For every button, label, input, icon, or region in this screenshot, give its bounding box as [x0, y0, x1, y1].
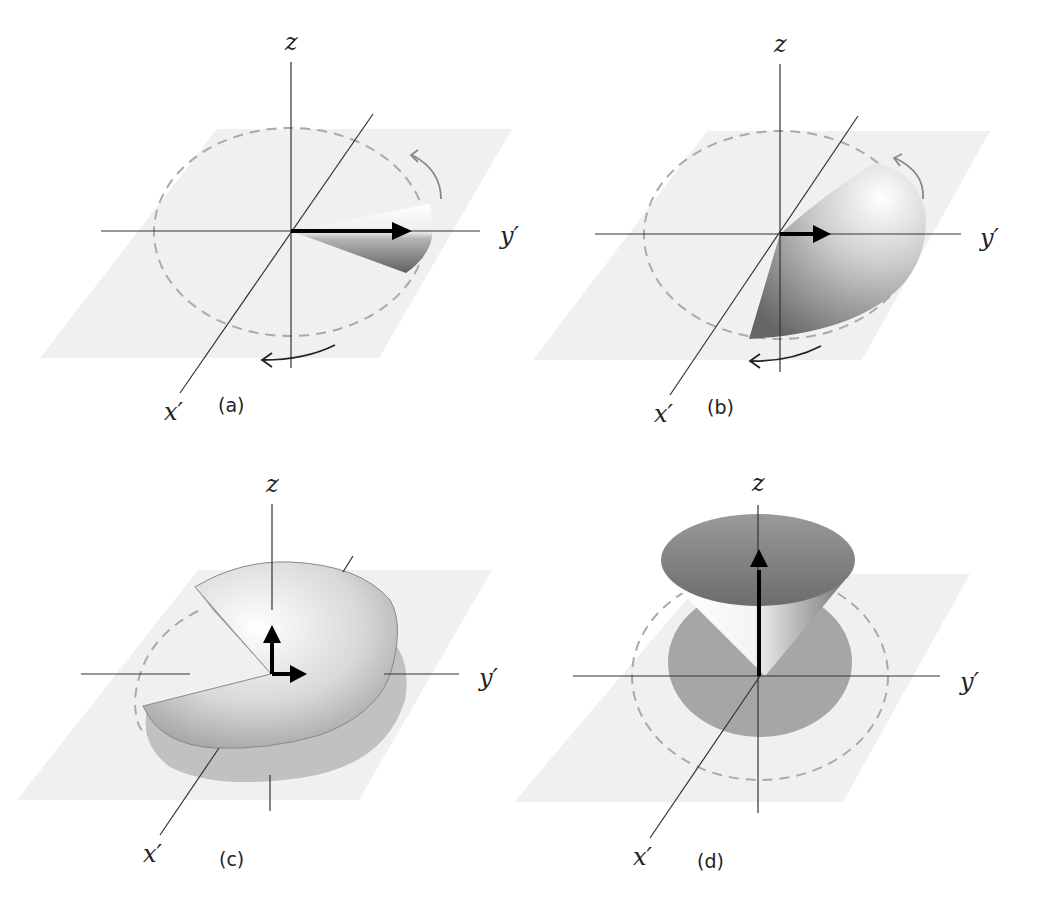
- y-axis-label: y′: [959, 668, 980, 696]
- z-axis-label: z: [751, 469, 765, 497]
- panel-b: z y′ x′ (b): [533, 30, 1000, 428]
- y-axis-label: y′: [979, 224, 1000, 252]
- x-axis-label: x′: [654, 400, 674, 428]
- panel-c: z y′ x′ (c): [17, 470, 499, 870]
- panel-a: z y′ x′ (a): [40, 28, 520, 426]
- y-axis-label: y′: [499, 222, 520, 250]
- x-axis-label: x′: [164, 398, 184, 426]
- x-axis: [343, 556, 353, 572]
- panel-label: (a): [218, 394, 244, 416]
- panel-label: (d): [697, 850, 724, 872]
- x-axis-label: x′: [633, 843, 653, 871]
- z-axis-label: z: [284, 28, 298, 56]
- panel-label: (b): [707, 396, 734, 418]
- panel-label: (c): [219, 848, 244, 870]
- z-axis-label: z: [265, 470, 279, 498]
- z-axis-label: z: [773, 30, 787, 58]
- figure: z y′ x′ (a) z y′ x′ (b): [0, 0, 1041, 913]
- y-axis-label: y′: [478, 664, 499, 692]
- x-axis-label: x′: [143, 840, 163, 868]
- plane: [40, 129, 512, 358]
- panel-d: z y′ x′ (d): [514, 469, 980, 872]
